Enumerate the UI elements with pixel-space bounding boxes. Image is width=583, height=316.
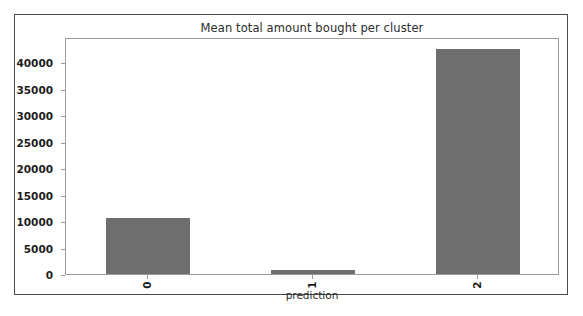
y-tick-mark bbox=[61, 249, 65, 250]
y-tick-label: 5000 bbox=[24, 243, 53, 255]
y-tick-mark bbox=[61, 275, 65, 276]
x-tick-label: 0 bbox=[141, 265, 153, 305]
bar-series bbox=[66, 39, 558, 274]
y-tick-label: 20000 bbox=[16, 163, 53, 175]
y-tick-mark bbox=[61, 169, 65, 170]
figure-canvas: Mean total amount bought per cluster 050… bbox=[14, 14, 568, 295]
x-tick-label: 1 bbox=[306, 265, 318, 305]
y-tick-label: 10000 bbox=[16, 216, 53, 228]
x-tick-label: 2 bbox=[471, 265, 483, 305]
y-tick-mark bbox=[61, 116, 65, 117]
plot-area bbox=[65, 38, 559, 275]
y-axis: 0500010000150002000025000300003500040000 bbox=[15, 15, 61, 296]
y-tick-mark bbox=[61, 196, 65, 197]
y-tick-mark bbox=[61, 63, 65, 64]
bar bbox=[436, 49, 520, 274]
y-tick-label: 40000 bbox=[16, 57, 53, 69]
y-tick-label: 15000 bbox=[16, 190, 53, 202]
y-tick-label: 25000 bbox=[16, 137, 53, 149]
y-tick-mark bbox=[61, 143, 65, 144]
y-tick-mark bbox=[61, 90, 65, 91]
y-tick-label: 0 bbox=[46, 269, 53, 281]
y-tick-label: 30000 bbox=[16, 110, 53, 122]
y-tick-label: 35000 bbox=[16, 84, 53, 96]
y-tick-mark bbox=[61, 222, 65, 223]
chart-title: Mean total amount bought per cluster bbox=[65, 21, 559, 35]
